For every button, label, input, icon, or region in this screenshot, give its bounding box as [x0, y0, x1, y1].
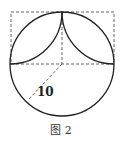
- right-inner-arc: [62, 12, 114, 64]
- geometry-figure: 10 图 2: [0, 0, 122, 142]
- figure-caption: 图 2: [50, 124, 72, 137]
- radius-label: 10: [37, 85, 54, 99]
- left-inner-arc: [10, 12, 62, 64]
